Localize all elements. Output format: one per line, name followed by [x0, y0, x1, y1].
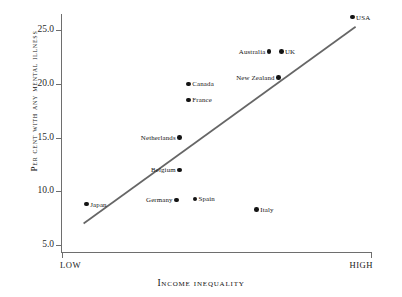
data-point-marker: [186, 98, 191, 103]
data-point-marker: [254, 207, 259, 212]
data-point-label: Canada: [192, 79, 214, 88]
y-axis-tick-label: 5.0: [0, 239, 54, 249]
y-axis-tick: [56, 84, 61, 85]
data-point-label: France: [192, 95, 212, 104]
y-axis-tick-label: 10.0: [0, 185, 54, 195]
data-point-marker: [84, 202, 89, 207]
x-axis-tick-label: HIGH: [345, 260, 373, 270]
y-axis-title: Per cent with any mental illness: [29, 0, 39, 211]
x-axis-tick: [371, 253, 372, 258]
data-point-label: New Zealand: [236, 73, 275, 82]
y-axis-tick-label: 20.0: [0, 78, 54, 88]
data-point-marker: [279, 49, 284, 54]
y-axis-tick: [56, 138, 61, 139]
y-axis-tick-label: 25.0: [0, 24, 54, 34]
data-point-label: UK: [285, 47, 295, 56]
data-point-marker: [267, 49, 272, 54]
y-axis-tick: [56, 191, 61, 192]
data-point-label: USA: [356, 13, 370, 22]
data-point-marker: [186, 82, 191, 87]
y-axis-line: [61, 14, 62, 253]
x-axis-tick-label: LOW: [60, 260, 81, 270]
y-axis-tick: [56, 30, 61, 31]
x-axis-line: [61, 252, 372, 253]
data-point-marker: [177, 168, 182, 173]
data-point-label: Australia: [239, 47, 266, 56]
data-point-label: Italy: [260, 205, 273, 214]
data-point-label: Japan: [90, 200, 106, 209]
data-point-marker: [276, 75, 281, 80]
data-point-marker: [174, 198, 179, 203]
x-axis-tick: [62, 253, 63, 258]
data-point-label: Spain: [198, 194, 214, 203]
y-axis-tick-label: 15.0: [0, 132, 54, 142]
data-point-label: Belgium: [151, 165, 176, 174]
data-point-marker: [193, 197, 198, 202]
data-point-marker: [177, 135, 182, 140]
chart-figure: 5.010.015.020.025.0 LOWHIGH Per cent wit…: [0, 0, 402, 297]
x-axis-title: Income inequality: [0, 277, 402, 288]
y-axis-tick: [56, 245, 61, 246]
data-point-marker: [350, 15, 355, 20]
data-point-label: Netherlands: [141, 133, 176, 142]
data-point-label: Germany: [146, 195, 173, 204]
